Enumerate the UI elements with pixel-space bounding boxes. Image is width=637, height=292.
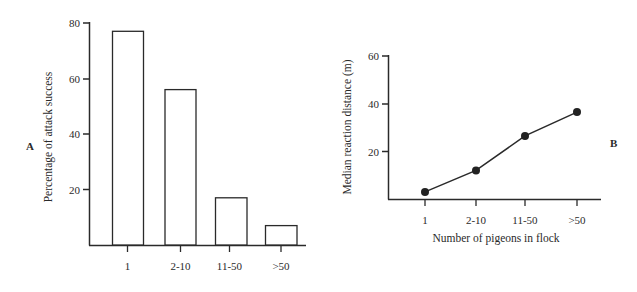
panel-b-ytick-20: 20 xyxy=(368,146,380,158)
bar-1 xyxy=(113,31,144,245)
point-gt-50 xyxy=(573,108,581,116)
panel-a-y-ticks: 80 60 40 20 xyxy=(69,17,89,196)
panel-b-series-line xyxy=(425,112,577,192)
panel-a-ytick-20: 20 xyxy=(69,184,81,196)
panel-a-ytick-80: 80 xyxy=(69,17,81,29)
panel-a-bars xyxy=(113,31,298,245)
panel-b-xtick-gt-50: >50 xyxy=(568,214,586,226)
panel-b-line-chart: B Median reaction distance (m) 60 40 20 … xyxy=(341,50,618,245)
panel-b-xtick-2-10: 2-10 xyxy=(466,214,487,226)
panel-a-y-axis-title: Percentage of attack success xyxy=(42,71,55,202)
panel-b-y-axis-title: Median reaction distance (m) xyxy=(341,59,354,194)
bar-gt-50 xyxy=(266,226,298,245)
bar-11-50 xyxy=(216,198,248,245)
point-2-10 xyxy=(472,166,480,174)
figure: A Percentage of attack success 80 60 40 … xyxy=(0,0,637,292)
point-1 xyxy=(421,188,429,196)
panel-a-xtick-1: 1 xyxy=(125,260,131,272)
panel-a-xtick-2-10: 2-10 xyxy=(170,260,191,272)
panel-b-x-ticks: 1 2-10 11-50 >50 xyxy=(422,200,586,226)
panel-a-ytick-60: 60 xyxy=(69,73,81,85)
point-11-50 xyxy=(521,132,529,140)
panel-a-x-ticks: 1 2-10 11-50 >50 xyxy=(125,246,290,272)
panel-b-x-axis-title: Number of pigeons in flock xyxy=(432,232,559,245)
panel-b-ytick-40: 40 xyxy=(368,98,380,110)
panel-b-xtick-1: 1 xyxy=(422,214,428,226)
panel-b-ytick-60: 60 xyxy=(368,50,380,62)
panel-a-ytick-40: 40 xyxy=(69,128,81,140)
panel-a-bar-chart: A Percentage of attack success 80 60 40 … xyxy=(26,17,306,272)
panel-a-xtick-11-50: 11-50 xyxy=(217,260,243,272)
bar-2-10 xyxy=(165,90,196,245)
panel-b-y-ticks: 60 40 20 xyxy=(368,50,388,158)
panel-b-xtick-11-50: 11-50 xyxy=(512,214,538,226)
panel-a-label: A xyxy=(26,140,34,152)
panel-b-label: B xyxy=(610,137,618,149)
panel-a-xtick-gt-50: >50 xyxy=(272,260,290,272)
